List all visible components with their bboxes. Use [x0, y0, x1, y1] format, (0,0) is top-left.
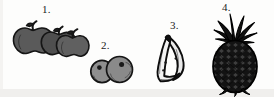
item-number-label-2: 2.	[101, 40, 110, 51]
scan-edge-left	[0, 0, 3, 97]
illustration-sheet: 1.	[0, 0, 274, 97]
bananas-icon	[152, 33, 196, 85]
item-number-label-1: 1.	[42, 4, 51, 15]
berries-icon	[88, 53, 136, 85]
apples-icon	[11, 18, 87, 58]
item-number-label-3: 3.	[170, 20, 179, 31]
pineapple-icon	[204, 12, 266, 96]
